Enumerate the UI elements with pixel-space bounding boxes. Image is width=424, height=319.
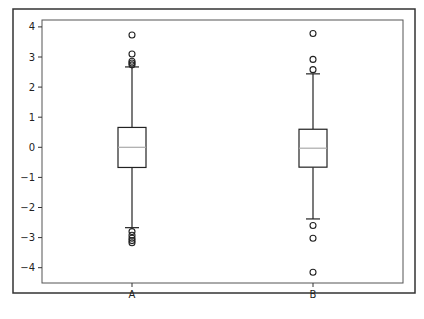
y-tick-label: 3 bbox=[29, 52, 35, 63]
y-tick-label: 2 bbox=[29, 82, 35, 93]
y-tick-label: −1 bbox=[20, 172, 35, 183]
box-plot-chart: −4−3−2−101234AB bbox=[0, 0, 424, 319]
x-tick-label: B bbox=[310, 289, 317, 300]
figure-canvas: −4−3−2−101234AB bbox=[0, 0, 424, 319]
x-tick-label: A bbox=[129, 289, 136, 300]
outer-frame bbox=[13, 9, 415, 293]
y-tick-label: −4 bbox=[20, 262, 35, 273]
y-tick-label: −3 bbox=[20, 232, 35, 243]
y-tick-label: −2 bbox=[20, 202, 35, 213]
y-tick-label: 1 bbox=[29, 112, 35, 123]
y-tick-label: 4 bbox=[29, 21, 35, 32]
y-tick-label: 0 bbox=[29, 142, 35, 153]
